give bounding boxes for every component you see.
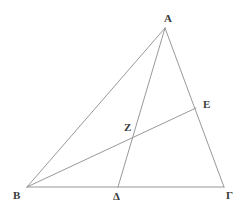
vertex-label-epsilon: Ε [203, 99, 210, 110]
segment-cevian-AD [118, 28, 165, 187]
vertex-label-gamma: Γ [226, 190, 233, 201]
vertex-label-alpha: Α [164, 13, 172, 24]
vertex-label-delta: Δ [113, 191, 120, 202]
segment-side-AB [27, 28, 165, 187]
geometry-figure: Α Β Γ Δ Ε Ζ [0, 0, 243, 213]
vertex-label-beta: Β [13, 190, 20, 201]
segment-side-AG [165, 28, 224, 187]
vertex-label-zeta: Ζ [124, 122, 131, 133]
segment-cevian-BE [27, 108, 196, 187]
